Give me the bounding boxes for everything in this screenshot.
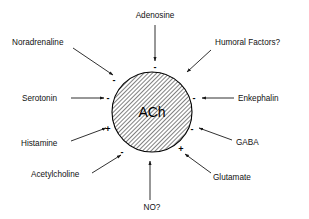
edge-humoral-factors [187, 50, 211, 72]
node-label-noradrenaline[interactable]: Noradrenaline [12, 38, 64, 47]
edge-glutamate [185, 154, 211, 173]
sign-adenosine: - [154, 62, 157, 72]
node-label-acetylcholine[interactable]: Acetylcholine [31, 170, 80, 179]
node-label-no[interactable]: NO? [144, 203, 161, 212]
sign-gaba: - [191, 124, 194, 134]
node-label-histamine[interactable]: Histamine [21, 139, 58, 148]
sign-noradrenaline: - [113, 75, 116, 85]
edge-noradrenaline [73, 48, 113, 75]
edge-gaba [199, 128, 232, 140]
node-label-enkephalin[interactable]: Enkephalin [238, 94, 279, 103]
ach-center-label: ACh [138, 104, 165, 120]
sign-enkephalin: - [193, 93, 196, 103]
center-node[interactable]: ACh [112, 72, 192, 152]
sign-acetylcholine: - [121, 147, 124, 157]
node-label-glutamate[interactable]: Glutamate [213, 173, 251, 182]
sign-serotonin: - [107, 93, 110, 103]
ach-modulation-diagram: ACh Adenosine Noradrenaline Humoral Fact… [0, 0, 309, 219]
node-label-adenosine[interactable]: Adenosine [136, 11, 175, 20]
node-label-serotonin[interactable]: Serotonin [22, 94, 57, 103]
edge-histamine [71, 128, 106, 141]
diagram-canvas: ACh Adenosine Noradrenaline Humoral Fact… [0, 0, 309, 219]
sign-glutamate: + [178, 144, 183, 154]
node-label-humoral-factors[interactable]: Humoral Factors? [215, 38, 281, 47]
node-label-gaba[interactable]: GABA [236, 138, 259, 147]
edge-acetylcholine [92, 155, 121, 173]
sign-histamine: + [105, 124, 110, 134]
